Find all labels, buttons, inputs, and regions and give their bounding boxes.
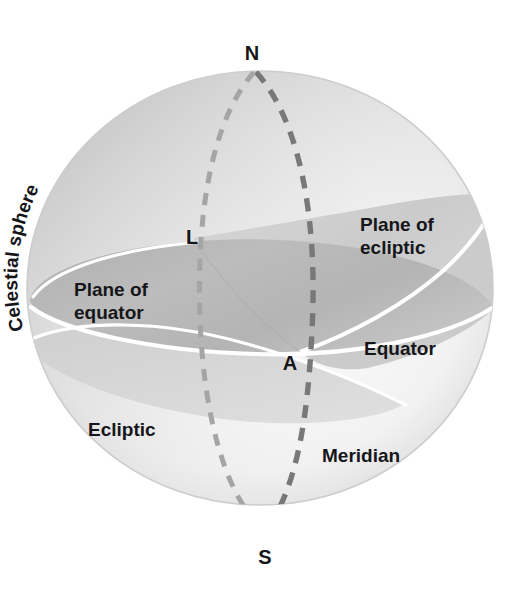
label-plane-of-equator-line2: equator bbox=[74, 302, 144, 323]
label-plane-of-ecliptic-line2: ecliptic bbox=[360, 237, 426, 258]
label-north-pole: N bbox=[245, 42, 259, 64]
label-south-pole: S bbox=[258, 546, 271, 568]
label-equator: Equator bbox=[364, 338, 436, 359]
label-point-a: A bbox=[283, 352, 297, 374]
label-meridian: Meridian bbox=[322, 445, 400, 466]
label-plane-of-ecliptic-line1: Plane of bbox=[360, 214, 435, 235]
label-ecliptic: Ecliptic bbox=[88, 419, 156, 440]
celestial-sphere-figure: Celestial sphere N S L A Plane of eclipt… bbox=[0, 0, 516, 596]
label-point-l: L bbox=[186, 226, 198, 248]
label-plane-of-equator-line1: Plane of bbox=[74, 279, 149, 300]
